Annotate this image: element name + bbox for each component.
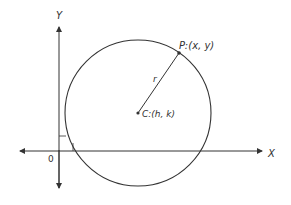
radius-label: r xyxy=(153,74,158,84)
center-point xyxy=(136,111,139,114)
origin-label: 0 xyxy=(48,154,54,164)
projection-ticks xyxy=(59,136,73,151)
circle-diagram: Y X 0 r P:(x, y) C:(h, k) xyxy=(0,0,291,205)
center-label: C:(h, k) xyxy=(142,109,175,119)
y-axis-label: Y xyxy=(56,10,63,21)
point-p-label: P:(x, y) xyxy=(179,40,214,51)
radius-line xyxy=(138,53,179,113)
point-p xyxy=(177,51,181,55)
x-axis-label: X xyxy=(267,148,276,159)
